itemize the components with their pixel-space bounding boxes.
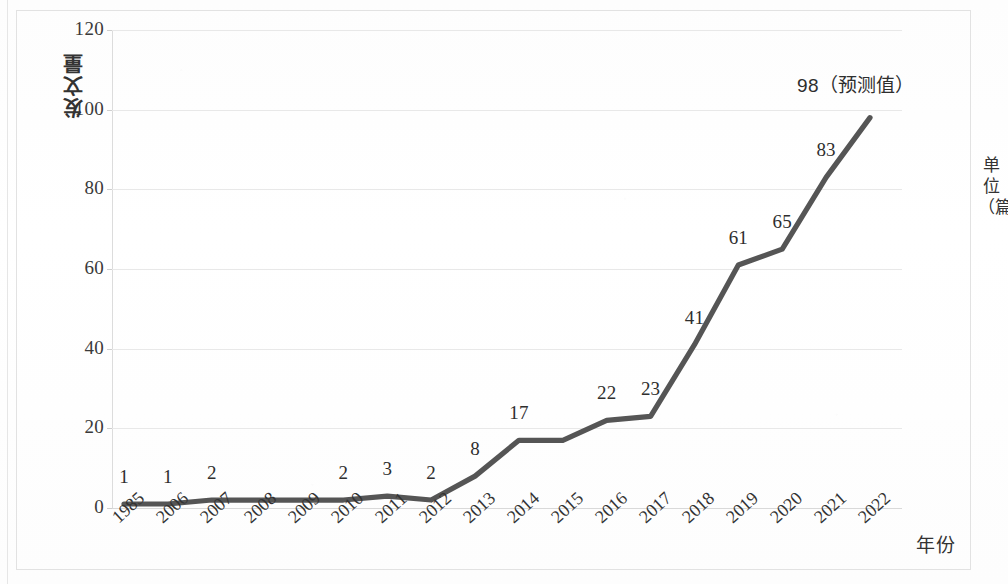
y-axis-title: 发文量 [59, 52, 89, 118]
y-axis-tick-label: 0 [94, 496, 104, 518]
page-edge-rule [7, 0, 8, 584]
data-point-label: 2 [207, 462, 217, 484]
data-point-label: 23 [641, 378, 660, 400]
data-point-label: 8 [470, 438, 480, 460]
data-point-label: 2 [339, 462, 349, 484]
data-point-label: 61 [729, 227, 748, 249]
data-point-label: 83 [816, 139, 835, 161]
data-point-label: 3 [382, 458, 392, 480]
scanned-page: 020406080100120 11223281722234161658398（… [0, 0, 1008, 584]
data-point-label: 65 [773, 211, 792, 233]
y-axis-tick-label: 40 [84, 337, 104, 359]
data-point-label: 41 [685, 307, 704, 329]
unit-axis-title: 单 位 （篇） [978, 155, 1004, 218]
data-point-label: 1 [119, 466, 129, 488]
data-point-label: 2 [426, 462, 436, 484]
x-axis-title: 年份 [916, 530, 956, 557]
y-axis-tick-label: 120 [75, 18, 104, 40]
unit-char-2: 位 [978, 176, 1004, 197]
x-axis-tick-labels: 1985200620072008200920102011201220132014… [112, 512, 912, 582]
y-axis-tick-label: 20 [84, 416, 104, 438]
data-point-label: 17 [509, 402, 528, 424]
unit-char-3: （篇） [978, 197, 1004, 218]
data-point-label: 1 [163, 466, 173, 488]
unit-char-1: 单 [978, 155, 1004, 176]
y-axis-tick-label: 80 [84, 177, 104, 199]
data-point-label: 22 [597, 382, 616, 404]
data-point-label: 98（预测值） [797, 70, 915, 97]
data-labels: 11223281722234161658398（预测值） [112, 30, 902, 508]
y-axis-tick-label: 60 [84, 257, 104, 279]
